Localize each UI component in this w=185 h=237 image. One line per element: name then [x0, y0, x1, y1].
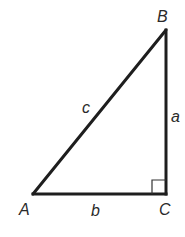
- vertex-label-a: A: [18, 201, 30, 218]
- vertex-label-c: C: [159, 201, 171, 218]
- vertex-label-b: B: [157, 8, 168, 25]
- side-label-b: b: [91, 202, 100, 219]
- right-triangle-diagram: B A C c a b: [0, 0, 185, 237]
- side-c-hypotenuse: [33, 30, 166, 194]
- side-label-c: c: [82, 99, 90, 116]
- right-angle-marker: [152, 180, 166, 194]
- side-label-a: a: [171, 108, 180, 125]
